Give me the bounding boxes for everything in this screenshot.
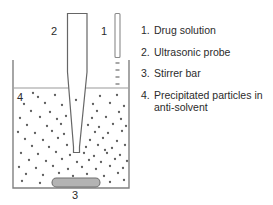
legend-item-ultrasonic-probe: 2. Ultrasonic probe (141, 46, 273, 59)
legend-item-drug-solution: 1. Drug solution (141, 24, 273, 37)
legend-item-stirrer-bar: 3. Stirrer bar (141, 67, 273, 80)
legend-item-precipitated-particles: 4. Precipitated particles in anti-solven… (141, 89, 273, 114)
callout-stirrer-bar: 3 (72, 190, 78, 201)
droplet-stream (116, 63, 120, 84)
apparatus-diagram: 1 2 3 4 1. Drug solution 2. Ultrasonic p… (0, 0, 273, 205)
ultrasonic-probe (68, 14, 88, 153)
legend-number: 3. (141, 67, 154, 80)
legend-label: Stirrer bar (154, 67, 273, 80)
drug-solution-needle (115, 14, 120, 58)
callout-drug-solution: 1 (101, 26, 107, 37)
stirrer-bar (52, 178, 100, 187)
legend-number: 1. (141, 24, 154, 37)
legend-label: Precipitated particles in anti-solvent (154, 89, 273, 114)
legend-number: 4. (141, 89, 154, 102)
legend-number: 2. (141, 46, 154, 59)
legend-label: Ultrasonic probe (154, 46, 273, 59)
legend-label: Drug solution (154, 24, 273, 37)
callout-precipitated-particles: 4 (17, 92, 23, 103)
legend: 1. Drug solution 2. Ultrasonic probe 3. … (141, 24, 273, 123)
callout-ultrasonic-probe: 2 (51, 26, 57, 37)
